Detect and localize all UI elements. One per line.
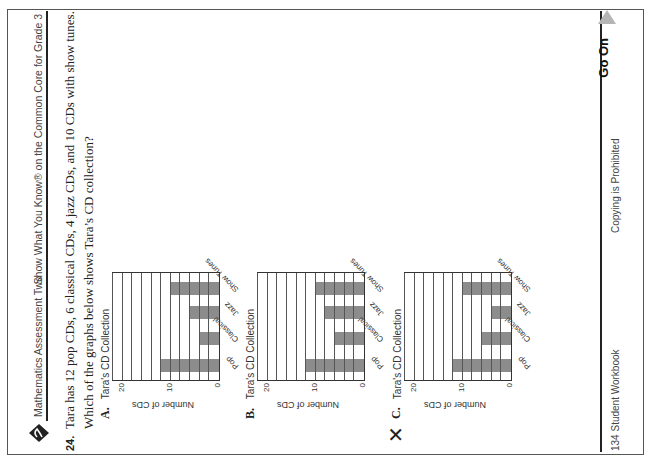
footer-copyright-notice: Copying is Prohibited xyxy=(610,139,621,234)
y-axis-label: Number of CDs xyxy=(123,400,203,410)
gridline xyxy=(267,273,268,380)
chart-option-a: Tara's CD Collection01020Number of CDsPo… xyxy=(100,253,240,423)
header-rule xyxy=(46,11,48,421)
question-prompt: Which of the graphs below shows Tara’s C… xyxy=(81,136,97,429)
chart-title: Tara's CD Collection xyxy=(392,289,403,419)
gridline xyxy=(189,273,190,380)
gridline xyxy=(423,273,424,380)
y-tick-label: 20 xyxy=(117,383,126,393)
gridline xyxy=(276,273,277,380)
plot-area xyxy=(257,272,365,381)
gridline xyxy=(170,273,171,380)
x-category-label: Jazz xyxy=(222,300,240,318)
y-tick-label: 0 xyxy=(505,383,514,393)
chart-title: Tara's CD Collection xyxy=(100,289,111,419)
chart-title: Tara's CD Collection xyxy=(245,289,256,419)
gridline xyxy=(131,273,132,380)
gridline xyxy=(286,273,287,380)
gridline xyxy=(500,273,501,380)
gridline xyxy=(257,273,258,380)
gridline xyxy=(112,273,113,380)
x-category-label: Pop xyxy=(224,355,240,371)
publisher-logo-icon xyxy=(28,423,50,443)
y-tick-label: 10 xyxy=(165,383,174,393)
chart-option-c: Tara's CD Collection01020Number of CDsPo… xyxy=(392,253,532,423)
question-text: Tara has 12 pop CDs, 6 classical CDs, 4 … xyxy=(62,11,78,429)
gridline xyxy=(344,273,345,380)
header-assessment-title: Mathematics Assessment Two xyxy=(32,276,44,417)
gridline xyxy=(443,273,444,380)
workbook-page: Mathematics Assessment Two Show What You… xyxy=(0,0,653,463)
gridline xyxy=(179,273,180,380)
y-tick-label: 10 xyxy=(310,383,319,393)
gridline xyxy=(296,273,297,380)
gridline xyxy=(452,273,453,380)
x-category-label: Jazz xyxy=(514,300,532,318)
y-tick-label: 0 xyxy=(358,383,367,393)
gridline xyxy=(151,273,152,380)
plot-area xyxy=(112,272,220,381)
gridline xyxy=(122,273,123,380)
gridline xyxy=(160,273,161,380)
y-tick-label: 20 xyxy=(262,383,271,393)
y-axis-label: Number of CDs xyxy=(268,400,348,410)
gridline xyxy=(462,273,463,380)
gridline xyxy=(471,273,472,380)
gridline xyxy=(481,273,482,380)
gridline xyxy=(353,273,354,380)
bar-classical xyxy=(335,332,364,345)
gridline xyxy=(305,273,306,380)
bar-show-tunes xyxy=(316,282,364,295)
y-axis-label: Number of CDs xyxy=(415,400,495,410)
gridline xyxy=(414,273,415,380)
gridline xyxy=(324,273,325,380)
bar-show-tunes xyxy=(463,282,511,295)
gridline xyxy=(433,273,434,380)
plot-area xyxy=(404,272,512,381)
gridline xyxy=(491,273,492,380)
x-category-label: Pop xyxy=(369,355,385,371)
question-number: 24. xyxy=(64,436,76,451)
gridline xyxy=(208,273,209,380)
y-tick-label: 0 xyxy=(213,383,222,393)
go-on-label: Go On xyxy=(596,38,611,78)
gridline xyxy=(141,273,142,380)
answer-x-mark-icon: ✕ xyxy=(384,426,408,443)
go-on-arrow-icon xyxy=(598,10,616,24)
header-book-title: Show What You Know® on the Common Core f… xyxy=(32,14,44,284)
y-tick-label: 10 xyxy=(457,383,466,393)
gridline xyxy=(334,273,335,380)
footer-page-label: 134 Student Workbook xyxy=(610,349,621,451)
x-category-label: Jazz xyxy=(367,300,385,318)
gridline xyxy=(199,273,200,380)
bar-show-tunes xyxy=(171,282,219,295)
gridline xyxy=(315,273,316,380)
bar-jazz xyxy=(325,306,364,319)
chart-option-b: Tara's CD Collection01020Number of CDsPo… xyxy=(245,253,385,423)
y-tick-label: 20 xyxy=(409,383,418,393)
x-category-label: Pop xyxy=(516,355,532,371)
gridline xyxy=(404,273,405,380)
bar-classical xyxy=(482,332,511,345)
